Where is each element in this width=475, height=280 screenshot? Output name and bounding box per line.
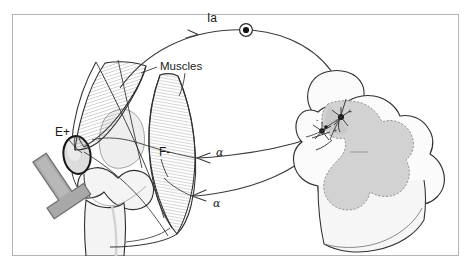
tibia-bone	[85, 200, 126, 256]
label-alpha-lower: α	[213, 197, 221, 210]
figure-root: Ia Muscles E+ F- α α + - +	[0, 0, 475, 280]
label-flexor: F-	[159, 145, 170, 159]
reflex-diagram: Ia Muscles E+ F- α α + - +	[0, 0, 475, 280]
label-ia: Ia	[207, 11, 217, 25]
label-extensor: E+	[55, 125, 70, 139]
label-alpha-upper: α	[216, 146, 224, 159]
dorsal-root-ganglion	[240, 24, 253, 37]
label-muscles: Muscles	[160, 60, 202, 72]
label-interneuron-sign: +	[348, 108, 352, 115]
label-motoneuron-plus: +	[333, 127, 337, 134]
